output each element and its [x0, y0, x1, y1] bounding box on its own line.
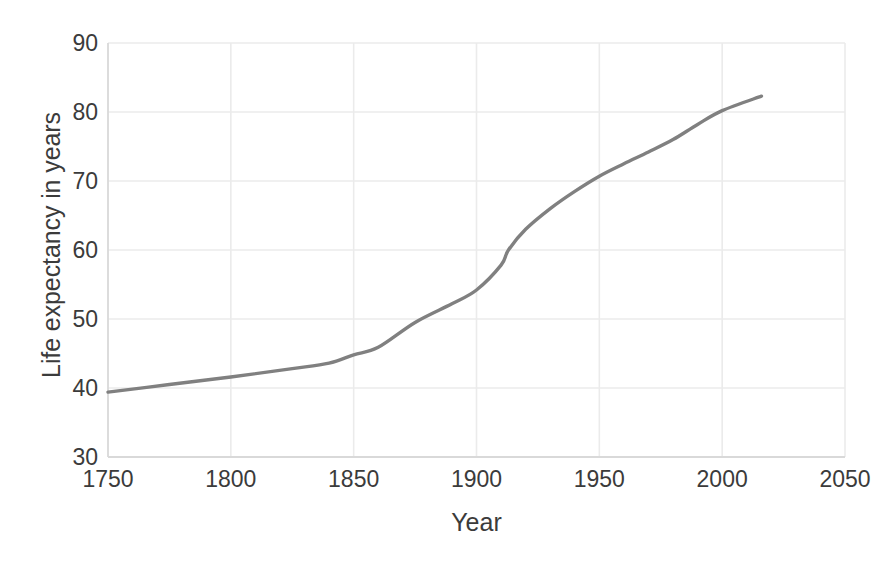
- x-axis-tick-label: 1750: [63, 468, 153, 491]
- x-axis-tick-label: 2000: [677, 468, 767, 491]
- series-line: [108, 96, 761, 392]
- data-series-group: [108, 96, 761, 392]
- x-axis-tick-labels: 1750180018501900195020002050: [0, 468, 893, 500]
- x-axis-tick-label: 1800: [186, 468, 276, 491]
- life-expectancy-line-chart: 30405060708090 1750180018501900195020002…: [0, 0, 893, 561]
- y-axis-title: Life expectancy in years: [34, 10, 68, 480]
- x-axis-tick-label: 2050: [800, 468, 890, 491]
- x-axis-tick-label: 1900: [432, 468, 522, 491]
- x-axis-tick-label: 1950: [554, 468, 644, 491]
- x-axis-title: Year: [108, 508, 845, 537]
- x-axis-tick-label: 1850: [309, 468, 399, 491]
